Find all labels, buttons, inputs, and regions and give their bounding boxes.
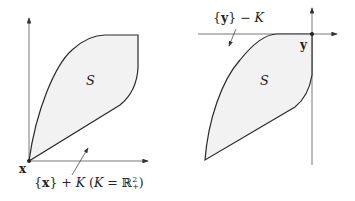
right-cone-label: {y} − K — [213, 12, 264, 25]
brace-close-minus: } − — [228, 10, 254, 25]
right-point-label: y — [300, 39, 307, 51]
left-set-s — [29, 35, 138, 161]
left-diagram — [27, 18, 148, 175]
left-set-label: S — [86, 74, 95, 87]
cone-k-def: K — [94, 175, 103, 190]
brace-open: { — [213, 10, 221, 25]
cone-k: K — [255, 10, 264, 25]
left-point-x — [27, 159, 31, 163]
brace-open: { — [34, 175, 42, 190]
right-set-s — [205, 34, 312, 160]
right-set-label: S — [260, 74, 269, 87]
paren-close: ) — [139, 175, 144, 190]
equals-r: = ℝ — [103, 175, 132, 190]
left-annotation-arrow — [72, 148, 88, 175]
left-cone-label: {x} + K (K = ℝ2+) — [34, 177, 144, 190]
brace-close-plus: } + — [49, 175, 75, 190]
right-annotation-arrow — [229, 29, 236, 46]
diagram-canvas — [0, 0, 355, 201]
subscript-plus: + — [132, 184, 139, 190]
left-point-label: x — [19, 163, 26, 175]
cone-k: K — [76, 175, 85, 190]
right-point-y — [310, 32, 314, 36]
paren-open: ( — [85, 175, 94, 190]
